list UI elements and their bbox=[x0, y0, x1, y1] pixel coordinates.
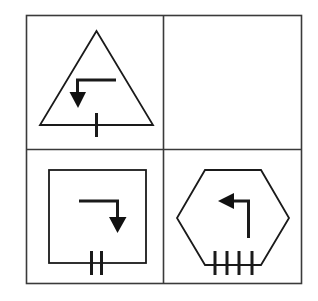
square-shape bbox=[49, 170, 146, 263]
arrow-right-down-icon bbox=[79, 201, 127, 233]
symbol-grid-diagram bbox=[0, 0, 318, 301]
grid bbox=[27, 16, 302, 284]
cell-bottom-right-hexagon bbox=[177, 170, 289, 275]
cell-bottom-left-square bbox=[49, 170, 146, 275]
arrow-left-down-icon bbox=[70, 80, 117, 108]
tick-marks-4 bbox=[215, 251, 252, 275]
triangle-shape bbox=[40, 31, 153, 125]
arrow-up-left-icon bbox=[218, 193, 249, 238]
hexagon-shape bbox=[177, 170, 289, 265]
cell-top-left-triangle bbox=[40, 31, 153, 137]
